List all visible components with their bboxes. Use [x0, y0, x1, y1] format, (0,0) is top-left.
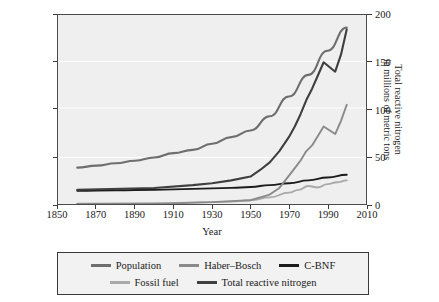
- legend-item-label: Population: [116, 260, 162, 271]
- legend-row: PopulationHaber–BoschC-BNF: [58, 257, 368, 274]
- y-axis-left-tick-mark: [53, 61, 57, 62]
- legend-line-swatch-icon: [197, 281, 217, 284]
- series-lines: [58, 15, 366, 204]
- legend-item[interactable]: Fossil fuel: [110, 277, 179, 288]
- x-axis-tick-mark: [212, 205, 213, 209]
- y-axis-right-tick-mark: [367, 109, 372, 110]
- x-axis-tick-mark: [134, 205, 135, 209]
- x-axis-tick-label: 1870: [85, 209, 106, 220]
- y-axis-right-tick-mark: [367, 61, 372, 62]
- x-axis-tick-mark: [250, 205, 251, 209]
- y-axis-left-tick-mark: [53, 108, 57, 109]
- legend-item-label: C-BNF: [304, 260, 335, 271]
- legend-line-swatch-icon: [110, 281, 130, 284]
- legend-item[interactable]: Haber–Bosch: [179, 260, 261, 271]
- y-axis-right-tick-label: 150: [375, 56, 391, 67]
- plot-area: [57, 14, 367, 205]
- x-axis-tick-label: 2010: [357, 209, 378, 220]
- legend-item-label: Haber–Bosch: [204, 260, 261, 271]
- x-axis-tick-label: 1950: [240, 209, 261, 220]
- x-axis-tick-label: 1970: [279, 209, 300, 220]
- legend-item[interactable]: Population: [91, 260, 162, 271]
- legend-item-label: Fossil fuel: [135, 277, 179, 288]
- legend-item[interactable]: C-BNF: [279, 260, 335, 271]
- legend-line-swatch-icon: [91, 264, 111, 267]
- x-axis-tick-mark: [57, 205, 58, 209]
- y-axis-right-tick-mark: [367, 205, 372, 206]
- legend-item-label: Total reactive nitrogen: [222, 277, 317, 288]
- x-axis-tick-label: 1850: [47, 209, 68, 220]
- y-axis-right-tick-label: 100: [375, 104, 391, 115]
- legend-row: Fossil fuelTotal reactive nitrogen: [58, 274, 368, 291]
- x-axis-tick-mark: [289, 205, 290, 209]
- x-axis-tick-mark: [328, 205, 329, 209]
- y-axis-right-tick-mark: [367, 14, 372, 15]
- y-axis-left-tick-mark: [53, 14, 57, 15]
- x-axis-tick-label: 1990: [318, 209, 339, 220]
- legend-line-swatch-icon: [179, 264, 199, 267]
- x-axis-tick-label: 1930: [202, 209, 223, 220]
- chart-figure: World population in billions Total react…: [0, 0, 439, 302]
- y-axis-left-title: World population in billions: [0, 0, 7, 14]
- legend-line-swatch-icon: [279, 264, 299, 267]
- y-axis-right-title-line1: Total reactive nitrogen: [393, 22, 404, 197]
- x-axis-title: Year: [57, 226, 367, 237]
- y-axis-right-tick-label: 50: [375, 152, 386, 163]
- x-axis-tick-mark: [173, 205, 174, 209]
- x-axis-tick-mark: [367, 205, 368, 209]
- y-axis-left-tick-mark: [53, 157, 57, 158]
- y-axis-right-tick-label: 200: [375, 9, 391, 20]
- x-axis-tick-label: 1910: [163, 209, 184, 220]
- y-axis-right-tick-mark: [367, 157, 372, 158]
- x-axis-tick-mark: [95, 205, 96, 209]
- x-axis-tick-label: 1890: [124, 209, 145, 220]
- legend-item[interactable]: Total reactive nitrogen: [197, 277, 317, 288]
- chart-legend: PopulationHaber–BoschC-BNFFossil fuelTot…: [57, 252, 369, 295]
